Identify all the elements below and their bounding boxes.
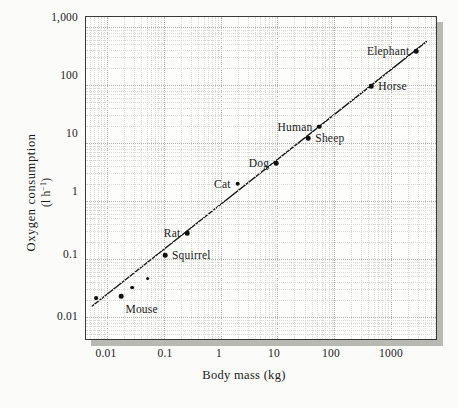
x-tick-label-100: 100 (322, 347, 340, 359)
gridline-vertical (164, 17, 165, 339)
gridline-vertical-minor (382, 17, 383, 339)
gridline-vertical-minor (191, 17, 192, 339)
gridline-vertical-minor (378, 17, 379, 339)
gridline-vertical-minor (198, 17, 199, 339)
gridline-horizontal-minor (86, 40, 436, 41)
data-point-dog (274, 161, 279, 166)
gridline-horizontal-minor (86, 98, 436, 99)
data-point-sheep (306, 136, 311, 141)
gridline-vertical-minor (425, 17, 426, 339)
y-tick-label-0.01: 0.01 (20, 310, 78, 322)
data-point-rat (185, 231, 190, 236)
gridline-vertical-minor (101, 17, 102, 339)
gridline-vertical (277, 17, 278, 339)
data-label-squirrel: Squirrel (172, 249, 211, 261)
gridline-vertical-minor (158, 17, 159, 339)
regression-line (86, 17, 437, 340)
data-point-cat (235, 181, 240, 186)
gridline-vertical-minor (134, 17, 135, 339)
gridline-vertical-minor (312, 17, 313, 339)
data-label-sheep: Sheep (315, 132, 344, 144)
gridline-vertical-minor (94, 17, 95, 339)
y-tick-label-10: 10 (20, 127, 78, 139)
data-label-cat: Cat (214, 178, 231, 190)
gridline-vertical-minor (255, 17, 256, 339)
gridline-vertical-minor (269, 17, 270, 339)
gridline-vertical-minor (204, 17, 205, 339)
gridline-vertical-minor (265, 17, 266, 339)
x-tick-label-1: 1 (216, 347, 222, 359)
gridline-horizontal-minor (86, 68, 436, 69)
y-axis-unit-suffix: ) (40, 178, 52, 182)
data-label-dog: Dog (249, 157, 269, 169)
figure: Oxygen consumption (l h−1) 1,000 100 10 … (0, 0, 458, 408)
x-tick-label-0.01: 0.01 (96, 347, 117, 359)
gridline-horizontal-minor (86, 149, 436, 150)
data-point-mouse (119, 294, 124, 299)
data-label-rat: Rat (164, 227, 181, 239)
gridline-horizontal-minor (86, 57, 436, 58)
y-tick-label-100: 100 (20, 69, 78, 81)
data-point-elephant (414, 49, 419, 54)
gridline-vertical-minor (212, 17, 213, 339)
gridline-vertical-minor (368, 17, 369, 339)
gridline-vertical-minor (141, 17, 142, 339)
gridline-horizontal-minor (86, 36, 436, 37)
gridline-vertical (334, 17, 335, 339)
gridline-vertical-minor (325, 17, 326, 339)
x-tick-label-1000: 1000 (379, 347, 403, 359)
gridline-vertical-minor (275, 17, 276, 339)
gridline-horizontal-minor (86, 30, 436, 31)
gridline-vertical-minor (248, 17, 249, 339)
gridline-vertical-minor (161, 17, 162, 339)
data-point-human (317, 125, 322, 130)
gridline-vertical-minor (272, 17, 273, 339)
gridline-vertical-minor (317, 17, 318, 339)
data-label-human: Human (278, 121, 313, 133)
gridline-vertical-minor (435, 17, 436, 339)
gridline-vertical (107, 17, 108, 339)
gridline-vertical-minor (294, 17, 295, 339)
gridline-vertical-minor (351, 17, 352, 339)
gridline-horizontal-minor (86, 126, 436, 127)
plot-area: MouseSquirrelRatCatDogSheepHumanHorseEle… (85, 16, 437, 340)
x-axis-title: Body mass (kg) (0, 368, 458, 383)
gridline-vertical-minor (305, 17, 306, 339)
gridline-vertical-minor (322, 17, 323, 339)
gridline-vertical-minor (155, 17, 156, 339)
data-point-squirrel (163, 253, 168, 258)
gridline-vertical-minor (151, 17, 152, 339)
data-point (94, 296, 98, 300)
gridline-vertical-minor (388, 17, 389, 339)
gridline-vertical-minor (332, 17, 333, 339)
gridline-vertical-minor (208, 17, 209, 339)
gridline-vertical (391, 17, 392, 339)
gridline-vertical-minor (260, 17, 261, 339)
gridline-vertical-minor (431, 17, 432, 339)
data-point (146, 277, 150, 281)
gridline-vertical-minor (90, 17, 91, 339)
gridline-horizontal-minor (86, 115, 436, 116)
y-tick-label-0.1: 0.1 (20, 248, 78, 260)
gridline-vertical-minor (124, 17, 125, 339)
gridline-horizontal-minor (86, 152, 436, 153)
gridline-vertical-minor (181, 17, 182, 339)
x-tick-label-10: 10 (268, 347, 280, 359)
data-label-mouse: Mouse (125, 303, 157, 315)
gridline-vertical-minor (147, 17, 148, 339)
gridline-horizontal-minor (86, 94, 436, 95)
gridline-vertical-minor (374, 17, 375, 339)
gridline-horizontal-minor (86, 33, 436, 34)
gridline-horizontal-minor (86, 108, 436, 109)
data-label-elephant: Elephant (367, 45, 409, 57)
gridline-vertical-minor (418, 17, 419, 339)
gridline-horizontal-minor (86, 146, 436, 147)
gridline-vertical-minor (361, 17, 362, 339)
gridline-vertical-minor (238, 17, 239, 339)
gridline-vertical-minor (104, 17, 105, 339)
gridline-vertical-minor (98, 17, 99, 339)
gridline-vertical-minor (385, 17, 386, 339)
y-tick-label-1000: 1,000 (20, 11, 78, 23)
gridline-vertical-minor (329, 17, 330, 339)
data-label-horse: Horse (378, 80, 406, 92)
